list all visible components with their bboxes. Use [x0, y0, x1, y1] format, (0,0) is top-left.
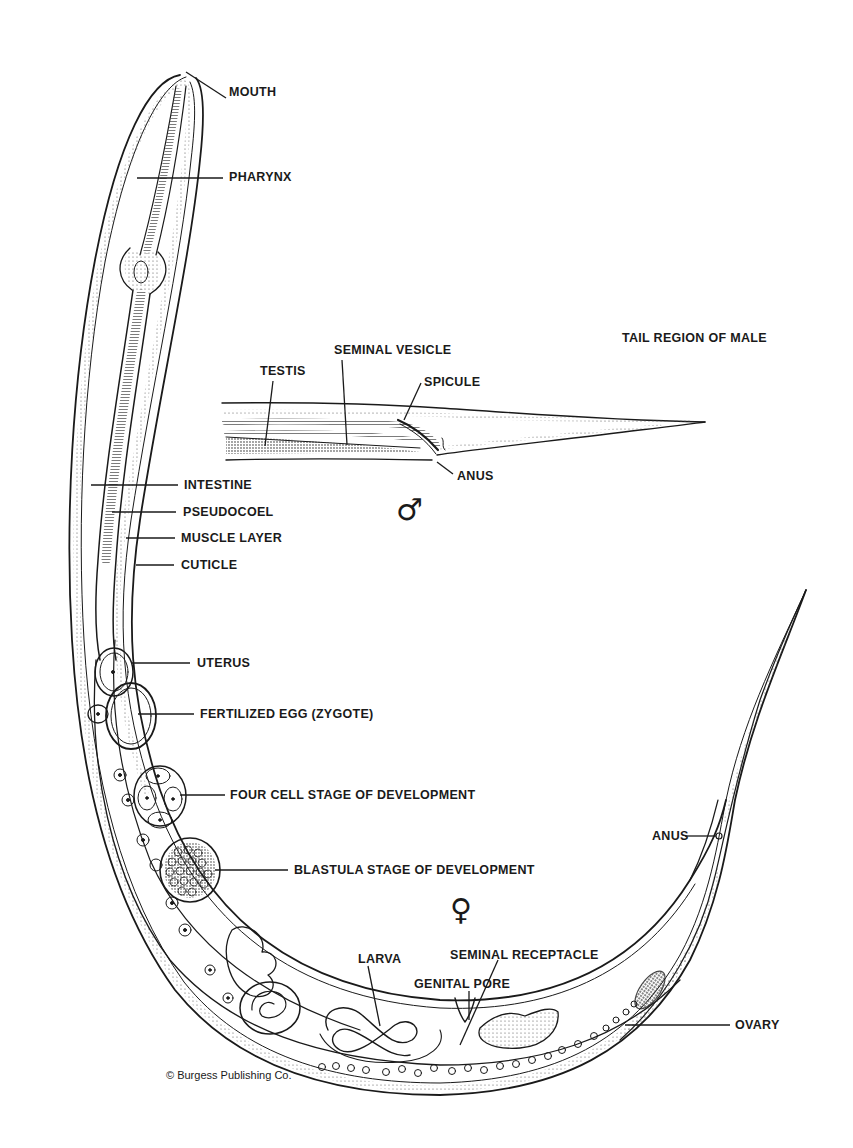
label-mouth: MOUTH — [229, 86, 276, 99]
label-seminal-receptacle: SEMINAL RECEPTACLE — [450, 949, 599, 962]
label-pseudocoel: PSEUDOCOEL — [183, 506, 274, 519]
male-tail — [222, 403, 705, 460]
label-anus-female: ANUS — [652, 830, 689, 843]
female-body — [69, 75, 806, 1095]
label-genital-pore: GENITAL PORE — [414, 978, 510, 991]
label-intestine: INTESTINE — [184, 479, 252, 492]
label-pharynx: PHARYNX — [229, 171, 292, 184]
copyright-credit: © Burgess Publishing Co. — [166, 1069, 292, 1081]
label-cuticle: CUTICLE — [181, 559, 237, 572]
label-four-cell-stage: FOUR CELL STAGE OF DEVELOPMENT — [230, 789, 475, 802]
male-symbol-icon: ♂ — [396, 495, 423, 525]
label-larva: LARVA — [358, 953, 401, 966]
label-anus-male: ANUS — [457, 470, 494, 483]
label-uterus: UTERUS — [197, 657, 250, 670]
male-section-title: TAIL REGION OF MALE — [622, 332, 767, 345]
label-blastula-stage: BLASTULA STAGE OF DEVELOPMENT — [294, 864, 535, 877]
label-testis: TESTIS — [260, 365, 306, 378]
label-muscle-layer: MUSCLE LAYER — [181, 532, 282, 545]
nematode-diagram: MOUTH PHARYNX INTESTINE PSEUDOCOEL MUSCL… — [0, 0, 853, 1148]
worm-illustration — [0, 0, 853, 1148]
label-ovary: OVARY — [735, 1019, 780, 1032]
label-seminal-vesicle: SEMINAL VESICLE — [334, 344, 451, 357]
label-spicule: SPICULE — [424, 376, 480, 389]
label-fertilized-egg: FERTILIZED EGG (ZYGOTE) — [200, 708, 374, 721]
female-symbol-icon: ♀ — [450, 895, 472, 925]
